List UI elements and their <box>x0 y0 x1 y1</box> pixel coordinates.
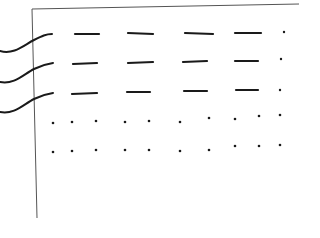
frame-top-edge <box>32 4 299 9</box>
dot-mark <box>71 150 74 153</box>
dot-mark <box>52 122 55 125</box>
dot-mark <box>208 117 211 120</box>
page-frame <box>32 4 299 218</box>
dash-mark <box>73 63 97 64</box>
connector-curve <box>0 63 53 83</box>
dash-mark <box>128 33 153 34</box>
sketch-marks <box>52 31 285 154</box>
connector-curve <box>0 93 53 113</box>
dot-mark <box>208 149 211 152</box>
dot-mark <box>280 58 282 60</box>
dot-mark <box>148 120 151 123</box>
dot-mark <box>124 149 127 152</box>
dash-mark <box>72 93 97 94</box>
dot-mark <box>279 114 282 117</box>
sketch-canvas <box>0 0 320 238</box>
dash-mark <box>183 61 207 62</box>
dot-mark <box>234 118 237 121</box>
dash-mark <box>185 33 213 34</box>
dot-mark <box>148 149 151 152</box>
connector-curves <box>0 34 53 113</box>
connector-curve <box>0 34 52 52</box>
dot-mark <box>95 149 98 152</box>
dot-mark <box>52 151 55 154</box>
dot-mark <box>95 120 98 123</box>
dot-mark <box>283 31 285 33</box>
dash-mark <box>128 62 153 63</box>
dot-mark <box>124 121 127 124</box>
dash-row <box>72 89 281 94</box>
dot-mark <box>179 150 182 153</box>
dash-row <box>75 31 285 34</box>
dot-mark <box>279 144 282 147</box>
dot-mark <box>179 121 182 124</box>
dot-mark <box>258 115 261 118</box>
dash-row <box>73 58 282 64</box>
dot-mark <box>71 121 74 124</box>
dot-mark <box>279 89 281 91</box>
dot-mark <box>258 145 261 148</box>
dot-row <box>52 114 282 125</box>
dot-row <box>52 144 282 154</box>
dot-mark <box>234 145 237 148</box>
